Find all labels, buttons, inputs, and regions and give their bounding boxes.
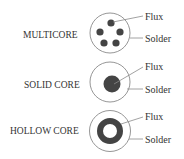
flux-callout: Flux — [145, 11, 163, 22]
flux-core-dot — [100, 39, 107, 46]
flux-core-dot — [112, 39, 119, 46]
solder-core-diagram: MULTICORE Flux Solder SOLID CORE Flux So… — [0, 0, 184, 159]
solder-callout: Solder — [145, 134, 172, 145]
flux-leader-line — [113, 16, 143, 22]
solder-callout: Solder — [145, 84, 172, 95]
flux-core-dot — [116, 28, 123, 35]
solder-outer-circle — [90, 13, 130, 53]
solder-outer-circle — [90, 111, 131, 152]
multicore-row: MULTICORE Flux Solder — [23, 11, 172, 53]
flux-callout: Flux — [145, 111, 163, 122]
flux-core-dot — [96, 28, 103, 35]
flux-hollow-ring — [100, 121, 120, 141]
flux-leader-line — [121, 117, 143, 124]
flux-core-dot — [107, 19, 114, 26]
flux-callout: Flux — [145, 61, 163, 72]
flux-solid-core — [104, 76, 121, 93]
solid-core-label: SOLID CORE — [24, 80, 80, 90]
hollow-core-row: HOLLOW CORE Flux Solder — [10, 111, 172, 152]
flux-leader-line — [114, 67, 143, 84]
multicore-label: MULTICORE — [23, 30, 78, 40]
solid-core-row: SOLID CORE Flux Solder — [24, 61, 172, 102]
hollow-core-label: HOLLOW CORE — [10, 126, 79, 136]
solder-callout: Solder — [145, 33, 172, 44]
